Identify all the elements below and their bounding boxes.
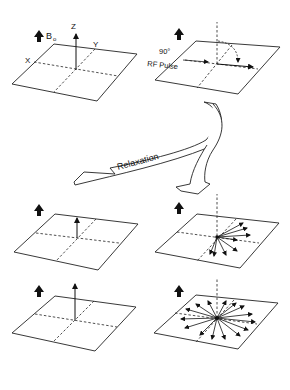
xy-plane — [12, 44, 137, 101]
y-label: Y — [93, 40, 99, 49]
z-label: Z — [71, 22, 76, 31]
b0-arrow-icon — [34, 285, 44, 297]
dephased-vectors — [181, 301, 255, 339]
y-axis-dashed — [54, 49, 95, 92]
y-axis-dashed — [196, 300, 234, 342]
x-axis-dashed — [35, 314, 117, 327]
pulse-label-rf: RF Pulse — [147, 59, 179, 71]
x-label: X — [25, 56, 31, 65]
panel-full-longitudinal — [12, 284, 136, 351]
panel-equilibrium: B o Z Y X — [12, 22, 137, 101]
b0-arrow-icon — [174, 202, 184, 214]
y-axis-dashed — [56, 219, 96, 261]
xy-plane — [14, 214, 138, 270]
panel-partial-longitudinal — [14, 204, 138, 270]
b0-arrow-icon — [34, 204, 44, 216]
y-axis-dashed — [53, 301, 94, 342]
relaxation-diagram: B o Z Y X 90° RF Pulse Relaxation — [0, 0, 290, 390]
b0-arrow-icon — [34, 30, 44, 42]
pulse-label-angle: 90° — [159, 47, 170, 56]
field-subscript: o — [53, 36, 57, 42]
b0-arrow-icon — [174, 285, 184, 297]
rf-pulse-arrow — [183, 60, 208, 62]
panel-partial-dephasing — [155, 194, 279, 268]
panel-full-dephasing — [154, 278, 278, 349]
dephasing-vectors — [210, 223, 250, 256]
relaxation-arrow: Relaxation — [74, 102, 222, 194]
field-label: B — [46, 31, 52, 41]
b0-arrow-icon — [174, 28, 184, 40]
panel-after-pulse: 90° RF Pulse — [147, 22, 280, 94]
xy-plane — [12, 296, 136, 351]
y-axis-dashed — [197, 45, 232, 88]
